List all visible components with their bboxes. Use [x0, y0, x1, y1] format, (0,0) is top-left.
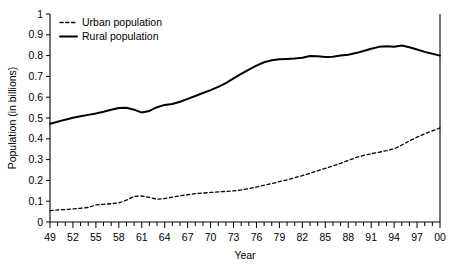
x-tick-label: 88	[342, 231, 354, 243]
y-tick-label: 0.7	[28, 70, 43, 82]
y-tick-group	[46, 14, 50, 222]
data-series-group	[50, 45, 440, 210]
x-tick-label: 94	[388, 231, 400, 243]
y-tick-label: 0.1	[28, 195, 43, 207]
x-tick-label: 49	[44, 231, 56, 243]
x-tick-label-group: 495255586164677073767982858891949700	[44, 231, 446, 243]
y-tick-label: 0.6	[28, 91, 43, 103]
x-axis-title: Year	[234, 249, 256, 261]
y-tick-label: 0.9	[28, 28, 43, 40]
chart-canvas: 00.10.20.30.40.50.60.70.80.91 4952555861…	[0, 0, 454, 270]
x-tick-label: 79	[274, 231, 286, 243]
series-line-urban	[50, 128, 440, 211]
y-tick-label: 0.4	[28, 132, 43, 144]
y-tick-label: 0.2	[28, 174, 43, 186]
x-tick-label: 97	[411, 231, 423, 243]
legend: Urban populationRural population	[60, 16, 162, 42]
x-tick-label: 61	[136, 231, 148, 243]
x-tick-label: 55	[90, 231, 102, 243]
x-tick-label: 85	[319, 231, 331, 243]
x-tick-group	[50, 222, 440, 228]
x-tick-label: 91	[365, 231, 377, 243]
axes-group	[50, 14, 440, 222]
y-tick-label-group: 00.10.20.30.40.50.60.70.80.91	[28, 8, 43, 228]
line-chart: 00.10.20.30.40.50.60.70.80.91 4952555861…	[0, 0, 454, 270]
x-tick-label: 52	[67, 231, 79, 243]
x-tick-label: 67	[182, 231, 194, 243]
y-tick-label: 0.8	[28, 49, 43, 61]
legend-label-urban: Urban population	[82, 16, 162, 28]
x-tick-label: 70	[205, 231, 217, 243]
y-axis-title: Population (in billions)	[6, 67, 18, 170]
y-tick-label: 1	[37, 8, 43, 20]
x-tick-label: 73	[228, 231, 240, 243]
x-tick-label: 00	[434, 231, 446, 243]
x-tick-label: 76	[251, 231, 263, 243]
y-tick-label: 0.3	[28, 153, 43, 165]
x-tick-label: 58	[113, 231, 125, 243]
series-line-rural	[50, 45, 440, 123]
x-tick-label: 64	[159, 231, 171, 243]
y-tick-label: 0	[37, 216, 43, 228]
x-tick-label: 82	[297, 231, 309, 243]
legend-label-rural: Rural population	[82, 30, 159, 42]
y-tick-label: 0.5	[28, 112, 43, 124]
